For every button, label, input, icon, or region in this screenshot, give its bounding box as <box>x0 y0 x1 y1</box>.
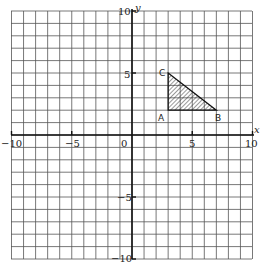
y-axis-label: y <box>134 2 141 13</box>
y-tick-label-neg10: −10 <box>111 253 132 264</box>
vertex-label-c: C <box>159 68 165 78</box>
y-tick-label-5: 5 <box>124 69 130 80</box>
x-tick-label-neg5: −5 <box>65 138 80 149</box>
vertex-label-a: A <box>158 113 165 123</box>
x-tick-label-neg10: −10 <box>1 138 22 149</box>
x-tick-label-5: 5 <box>189 138 195 149</box>
y-tick-label-neg5: −5 <box>117 192 132 203</box>
coordinate-plane: y x −10 −5 0 5 10 10 5 −5 −10 A B C <box>0 0 260 270</box>
x-axis-label: x <box>254 124 260 135</box>
origin-label: 0 <box>121 138 127 149</box>
x-tick-label-10: 10 <box>245 138 258 149</box>
y-tick-label-10: 10 <box>118 6 131 17</box>
vertex-label-b: B <box>215 113 221 123</box>
